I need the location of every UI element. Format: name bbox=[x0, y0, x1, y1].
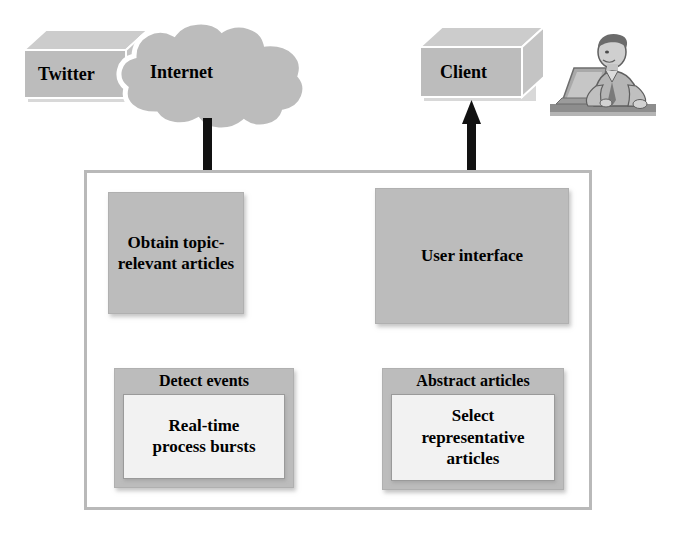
group-box-abstract-articles: Abstract articles Select representative … bbox=[382, 368, 564, 490]
abstract-nested-line3: articles bbox=[447, 449, 500, 468]
process-box-obtain-articles: Obtain topic- relevant articles bbox=[108, 192, 244, 314]
abstract-nested-line1: Select bbox=[452, 406, 494, 425]
nested-box-select-representative-articles: Select representative articles bbox=[391, 394, 555, 481]
abstract-nested-line2: representative bbox=[421, 428, 524, 447]
group-box-abstract-articles-header: Abstract articles bbox=[383, 369, 563, 394]
person-laptop-shape bbox=[548, 30, 660, 126]
process-box-user-interface: User interface bbox=[375, 188, 569, 324]
detect-nested-line2: process bursts bbox=[152, 437, 255, 456]
nested-box-select-representative-articles-label: Select representative articles bbox=[421, 405, 524, 469]
edge-user-interface-to-client bbox=[462, 100, 482, 174]
person-at-laptop-icon bbox=[548, 30, 660, 130]
nested-box-real-time-process-bursts: Real-time process bursts bbox=[123, 394, 285, 479]
obtain-label-line2: relevant articles bbox=[118, 254, 234, 273]
group-box-detect-events-header: Detect events bbox=[115, 369, 293, 394]
node-internet-label: Internet bbox=[150, 62, 213, 83]
process-box-user-interface-label: User interface bbox=[421, 245, 523, 266]
node-twitter-label: Twitter bbox=[38, 64, 95, 85]
process-box-obtain-articles-label: Obtain topic- relevant articles bbox=[118, 232, 234, 275]
nested-box-real-time-process-bursts-label: Real-time process bursts bbox=[152, 415, 255, 458]
node-client-label: Client bbox=[440, 62, 487, 83]
detect-nested-line1: Real-time bbox=[169, 416, 240, 435]
architecture-diagram: Twitter Internet Client bbox=[0, 0, 676, 533]
group-box-detect-events: Detect events Real-time process bursts bbox=[114, 368, 294, 488]
arrow-up-icon bbox=[462, 100, 482, 174]
obtain-label-line1: Obtain topic- bbox=[128, 233, 225, 252]
